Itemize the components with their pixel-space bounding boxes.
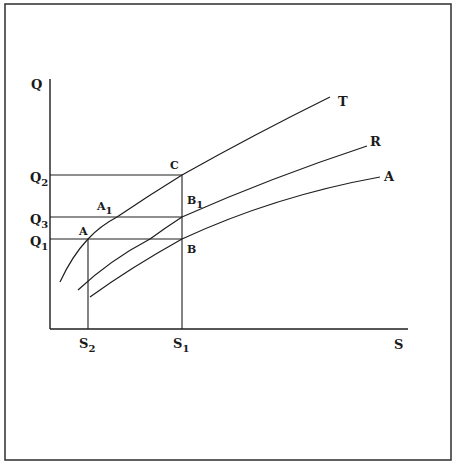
y-axis-label: Q <box>31 77 42 92</box>
point-label-c: C <box>170 159 179 172</box>
diagram-canvas: Q S Q2 Q3 Q1 S2 S1 T R A C A1 B1 A B <box>0 0 456 464</box>
y-tick-q3: Q3 <box>30 212 48 230</box>
outer-frame <box>5 4 451 460</box>
curve-r <box>78 146 367 290</box>
point-label-a: A <box>78 225 88 238</box>
point-label-a1: A1 <box>96 200 113 216</box>
y-tick-q2: Q2 <box>30 170 48 188</box>
point-label-b: B <box>187 243 196 256</box>
point-label-b1: B1 <box>187 194 203 210</box>
curve-label-a: A <box>383 169 395 184</box>
x-axis-label: S <box>394 337 403 352</box>
curve-label-t: T <box>338 94 348 109</box>
curve-label-r: R <box>370 134 381 149</box>
x-tick-s2: S2 <box>79 336 95 354</box>
x-tick-s1: S1 <box>173 336 189 354</box>
y-tick-q1: Q1 <box>30 234 48 252</box>
